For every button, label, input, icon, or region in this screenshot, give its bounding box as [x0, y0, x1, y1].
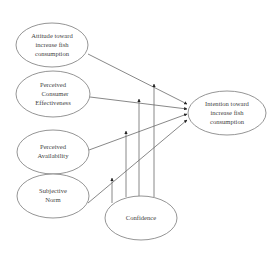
- node-attitude: Attitude toward increase fish consumptio…: [16, 23, 88, 67]
- path-diagram: Attitude toward increase fish consumptio…: [0, 0, 271, 256]
- edge-pce-intention: [90, 97, 187, 109]
- node-availability-line2: Availability: [37, 152, 69, 159]
- node-perceived-availability: Perceived Availability: [17, 130, 89, 174]
- node-pce-line2: Consumer: [41, 90, 69, 97]
- node-subjective-norm: Subjective Norm: [17, 174, 89, 218]
- node-attitude-line2: increase fish: [35, 41, 69, 48]
- node-attitude-line3: consumption: [35, 50, 70, 57]
- node-pce-line1: Perceived: [40, 81, 67, 88]
- node-intention-line2: increase fish: [210, 109, 244, 116]
- node-perceived-consumer-effectiveness: Perceived Consumer Effectiveness: [16, 71, 90, 117]
- node-intention-line1: Intention toward: [205, 100, 249, 107]
- node-intention: Intention toward increase fish consumpti…: [188, 91, 266, 135]
- node-norm-line1: Subjective: [39, 187, 67, 194]
- node-attitude-line1: Attitude toward: [31, 32, 73, 39]
- node-availability-line1: Perceived: [40, 143, 67, 150]
- node-norm-line2: Norm: [45, 196, 61, 203]
- node-pce-line3: Effectiveness: [35, 99, 71, 106]
- node-intention-line3: consumption: [210, 118, 245, 125]
- node-confidence-line1: Confidence: [126, 214, 156, 221]
- edge-attitude-intention: [88, 54, 187, 104]
- node-confidence: Confidence: [105, 196, 177, 240]
